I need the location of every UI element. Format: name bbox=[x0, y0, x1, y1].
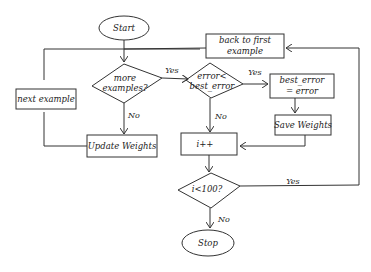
best-error-label-1: best_error bbox=[280, 75, 325, 85]
error-check-label-1: error< bbox=[197, 71, 226, 81]
start-label: Start bbox=[113, 23, 135, 33]
save-weights-label: Save Weights bbox=[274, 120, 332, 130]
back-to-first-label-2: example bbox=[227, 46, 263, 56]
edge-label-more-yes: Yes bbox=[165, 66, 178, 75]
stop-label: Stop bbox=[198, 238, 218, 248]
edge-label-err-yes: Yes bbox=[248, 68, 261, 77]
update-weights-label: Update Weights bbox=[88, 141, 157, 151]
back-to-first-label-1: back to first bbox=[219, 35, 271, 45]
next-example-label: next example bbox=[17, 94, 75, 104]
more-examples-label-1: more bbox=[114, 73, 136, 83]
edge-label-loop-no: No bbox=[218, 215, 230, 224]
flowchart-canvas bbox=[0, 0, 371, 272]
more-examples-label-2: examples? bbox=[102, 83, 147, 93]
loop-check-label: i<100? bbox=[192, 184, 223, 194]
edge-label-more-no: No bbox=[128, 111, 140, 120]
edge-label-loop-yes: Yes bbox=[286, 177, 299, 186]
best-error-label-2: = error bbox=[286, 86, 318, 96]
edge-label-err-no: No bbox=[215, 112, 227, 121]
increment-label: i++ bbox=[197, 139, 214, 149]
error-check-label-2: best_error bbox=[190, 81, 235, 91]
